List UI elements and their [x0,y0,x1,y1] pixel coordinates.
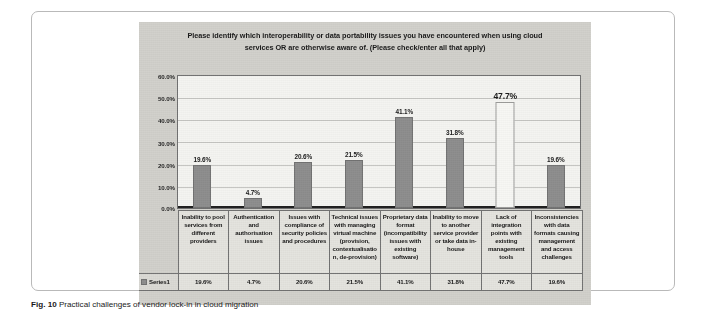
chart-image: Please identify which interoperability o… [139,22,591,305]
value-cell-4: 21.5% [330,274,381,291]
category-cell-6: Inability to move to another service pro… [431,211,482,274]
category-cell-3: Issues with compliance of security polic… [279,211,330,274]
bar-slot-4: 21.5% [329,75,380,208]
bar-4[interactable] [345,160,363,208]
y-tick-30: 30.0% [141,139,175,146]
y-tick-10: 10.0% [141,183,175,190]
bar-3[interactable] [294,162,312,208]
bar-value-label-5: 41.1% [396,108,413,115]
bar-2[interactable] [244,198,262,208]
category-cell-7: Lack of integration points with existing… [481,211,532,274]
value-cell-5: 41.1% [380,274,431,291]
value-cell-8: 19.6% [532,274,583,291]
category-cell-1: Inability to pool services from differen… [178,211,229,274]
figure-card: Please identify which interoperability o… [31,11,675,291]
bar-value-label-6: 31.8% [446,129,463,136]
table-corner-cell [139,211,178,274]
bar-slot-2: 4.7% [228,75,279,208]
bar-slot-3: 20.6% [278,75,329,208]
bar-5[interactable] [395,117,413,208]
legend-series1: Series1 [139,274,178,291]
y-tick-20: 20.0% [141,161,175,168]
chart-title-line-1: Please identify which interoperability o… [155,30,575,42]
value-cell-7: 47.7% [481,274,532,291]
table-row-series1: Series1 19.6% 4.7% 20.6% 21.5% 41.1% 31.… [139,274,582,291]
table-row-categories: Inability to pool services from differen… [139,211,582,274]
category-cell-8: Inconsistencies with data formats causin… [532,211,583,274]
legend-color-swatch-icon [141,279,147,285]
category-cell-5: Proprietary data format (incompatibility… [380,211,431,274]
value-cell-3: 20.6% [279,274,330,291]
data-table: Inability to pool services from differen… [139,210,583,291]
figure-caption-text: Practical challenges of vendor lock-in i… [59,300,258,309]
category-cell-4: Technical issues with managing virtual m… [330,211,381,274]
bar-slot-6: 31.8% [430,75,481,208]
bar-value-label-1: 19.6% [194,156,211,163]
bar-value-label-7: 47.7% [493,91,517,101]
y-tick-60: 60.0% [141,73,175,80]
figure-page: Please identify which interoperability o… [0,0,706,329]
category-cell-2: Authentication and authorisation issues [229,211,280,274]
bar-value-label-2: 4.7% [246,189,260,196]
figure-caption-label: Fig. 10 [31,300,57,309]
value-cell-6: 31.8% [431,274,482,291]
bar-slot-8: 19.6% [531,75,582,208]
value-cell-1: 19.6% [178,274,229,291]
y-tick-50: 50.0% [141,95,175,102]
legend-label: Series1 [149,278,170,285]
bar-7-highlighted[interactable] [496,102,515,208]
bar-value-label-4: 21.5% [345,151,362,158]
bar-slot-1: 19.6% [177,75,228,208]
figure-caption: Fig. 10 Practical challenges of vendor l… [31,299,631,311]
bar-8[interactable] [547,165,565,209]
bar-slot-5: 41.1% [379,75,430,208]
bar-series-series1: 19.6% 4.7% 20.6% 21.5% 41.1% [177,75,581,208]
chart-title-line-2: services OR are otherwise aware of. (Ple… [155,42,575,54]
y-axis-labels: 60.0% 50.0% 40.0% 30.0% 20.0% 10.0% 0.0% [139,75,175,209]
y-tick-40: 40.0% [141,117,175,124]
bar-value-label-8: 19.6% [547,156,564,163]
bar-value-label-3: 20.6% [295,153,312,160]
value-cell-2: 4.7% [229,274,280,291]
bar-1[interactable] [193,165,211,209]
bar-slot-7: 47.7% [480,75,531,208]
bar-6[interactable] [446,138,464,209]
chart-title: Please identify which interoperability o… [155,30,575,53]
